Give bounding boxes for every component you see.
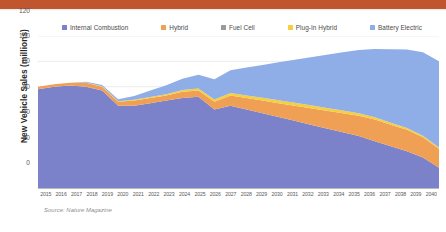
x-tick-label: 2021 [131,191,146,201]
legend-item-hybrid[interactable]: Hybrid [161,24,188,31]
x-tick-label: 2028 [238,191,253,201]
y-tick-label: 20 [8,134,30,141]
y-axis-tick-labels: 120 100 80 60 40 20 0 [8,11,30,232]
x-tick-label: 2015 [38,191,53,201]
plot-area [38,36,439,188]
x-tick-label: 2023 [161,191,176,201]
legend-item-label: Fuel Cell [229,24,255,31]
legend-item-internal-combustion[interactable]: Internal Combustion [62,24,128,31]
y-tick-label: 0 [8,159,30,166]
x-tick-label: 2019 [100,191,115,201]
x-tick-label: 2032 [300,191,315,201]
x-tick-label: 2035 [346,191,361,201]
vehicle-sales-area-chart: Internal Combustion Hybrid Fuel Cell Plu… [0,11,446,232]
x-tick-label: 2016 [53,191,68,201]
legend-item-plug-in-hybrid[interactable]: Plug-In Hybrid [288,24,337,31]
x-tick-label: 2029 [254,191,269,201]
legend-item-label: Battery Electric [378,24,422,31]
x-tick-label: 2031 [285,191,300,201]
x-tick-label: 2036 [362,191,377,201]
y-tick-label: 100 [8,32,30,39]
square-swatch-icon [161,25,166,30]
square-swatch-icon [221,25,226,30]
x-tick-label: 2038 [393,191,408,201]
source-note: Source: Nature Magazine [44,207,112,213]
x-tick-label: 2030 [269,191,284,201]
x-tick-label: 2025 [192,191,207,201]
square-swatch-icon [370,25,375,30]
square-swatch-icon [62,25,67,30]
legend-item-fuel-cell[interactable]: Fuel Cell [221,24,255,31]
chart-legend: Internal Combustion Hybrid Fuel Cell Plu… [62,21,422,34]
x-tick-label: 2033 [316,191,331,201]
legend-item-label: Hybrid [169,24,188,31]
y-tick-label: 40 [8,108,30,115]
area-series-group [38,49,439,188]
x-tick-label: 2020 [115,191,130,201]
legend-item-battery-electric[interactable]: Battery Electric [370,24,422,31]
x-tick-label: 2017 [69,191,84,201]
x-tick-label: 2018 [84,191,99,201]
x-tick-label: 2040 [424,191,439,201]
x-tick-label: 2039 [408,191,423,201]
x-tick-label: 2034 [331,191,346,201]
x-axis-line [38,188,439,189]
x-tick-label: 2026 [208,191,223,201]
x-tick-label: 2024 [177,191,192,201]
x-tick-label: 2022 [146,191,161,201]
x-tick-label: 2037 [377,191,392,201]
y-tick-label: 60 [8,83,30,90]
y-tick-label: 120 [8,7,30,14]
x-tick-label: 2027 [223,191,238,201]
legend-item-label: Plug-In Hybrid [296,24,337,31]
stacked-area-svg [38,36,439,188]
top-accent-banner [0,0,446,9]
y-tick-label: 80 [8,57,30,64]
legend-item-label: Internal Combustion [70,24,128,31]
x-axis-tick-labels: 2015201620172018201920202021202220232024… [38,191,439,201]
square-swatch-icon [288,25,293,30]
